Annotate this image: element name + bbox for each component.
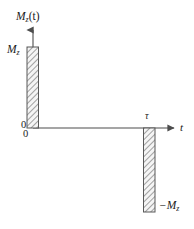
bar-negative-mz (144, 128, 156, 212)
x-axis-label: t (180, 122, 183, 133)
magnetization-figure: Mz(t) Mz 0 0 τ t −Mz (0, 0, 194, 229)
origin-label-below: 0 (23, 129, 28, 140)
y-value-negative-label: −Mz (159, 200, 179, 213)
plot-canvas (0, 0, 194, 229)
tau-tick-label: τ (145, 111, 149, 121)
bar-positive-mz (27, 47, 39, 128)
y-axis-label: Mz(t) (16, 11, 40, 24)
y-value-positive-label: Mz (7, 44, 20, 57)
